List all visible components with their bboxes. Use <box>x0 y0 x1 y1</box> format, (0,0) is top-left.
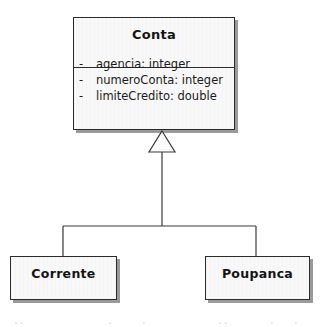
artifact-fragment: . <box>294 313 300 327</box>
attribute-signature: agencia: integer <box>96 56 190 72</box>
artifact-fragment: . <box>108 313 114 327</box>
artifact-fragment: . <box>142 313 148 327</box>
attribute-visibility-marker: - <box>74 56 96 72</box>
attribute-list: - agencia: integer - numeroConta: intege… <box>74 56 234 104</box>
generalization-triangle-icon <box>149 131 175 152</box>
attribute-visibility-marker: - <box>74 88 96 104</box>
artifact-fragment: .. <box>218 313 230 327</box>
attribute-row: - agencia: integer <box>74 56 234 72</box>
class-name-corrente: Corrente <box>11 266 116 281</box>
artifact-fragment: .. <box>14 313 26 327</box>
attribute-visibility-marker: - <box>74 72 96 88</box>
artifact-fragment: . <box>270 313 276 327</box>
class-name-conta: Conta <box>74 27 234 42</box>
attribute-signature: numeroConta: integer <box>96 72 223 88</box>
class-name-poupanca: Poupanca <box>206 266 309 281</box>
uml-diagram-canvas: Conta - agencia: integer - numeroConta: … <box>0 0 329 327</box>
attribute-row: - numeroConta: integer <box>74 72 234 88</box>
clipped-text-artifacts: .. . . .. . . <box>0 309 329 327</box>
uml-class-poupanca[interactable]: Poupanca <box>205 256 310 300</box>
attribute-row: - limiteCredito: double <box>74 88 234 104</box>
uml-class-corrente[interactable]: Corrente <box>10 256 117 300</box>
attribute-signature: limiteCredito: double <box>96 88 217 104</box>
uml-class-conta[interactable]: Conta - agencia: integer - numeroConta: … <box>73 17 235 130</box>
